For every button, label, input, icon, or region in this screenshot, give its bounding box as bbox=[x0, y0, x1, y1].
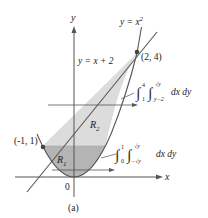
svg-text:−√y: −√y bbox=[131, 158, 141, 164]
lower-arrow-head-icon bbox=[109, 168, 115, 172]
svg-text:∫: ∫ bbox=[114, 147, 121, 164]
upper-integral-expression: ∫ 4 1 ∫ √y y−2 dx dy bbox=[135, 81, 192, 102]
svg-text:√y: √y bbox=[134, 143, 140, 149]
lower-integral-leader bbox=[101, 154, 116, 158]
origin-label: 0 bbox=[65, 182, 70, 192]
svg-text:4: 4 bbox=[142, 82, 145, 88]
x-axis-arrow-icon bbox=[156, 175, 163, 180]
lower-integral-expression: ∫ 1 0 ∫ √y −√y dx dy bbox=[114, 143, 177, 164]
double-integral-region-diagram: y x 0 y = x2 y = x + 2 (2, 4) (-1, 1) R2… bbox=[0, 0, 208, 218]
point-neg1-1 bbox=[41, 145, 46, 150]
svg-text:1: 1 bbox=[121, 144, 124, 150]
line-label: y = x + 2 bbox=[77, 56, 114, 66]
svg-text:y−2: y−2 bbox=[153, 96, 164, 102]
point-label-2-4: (2, 4) bbox=[141, 52, 162, 63]
svg-text:dx dy: dx dy bbox=[156, 149, 177, 159]
svg-text:dx dy: dx dy bbox=[171, 87, 192, 97]
figure-caption: (a) bbox=[68, 203, 79, 214]
svg-text:∫: ∫ bbox=[135, 85, 142, 102]
svg-text:0: 0 bbox=[121, 158, 124, 164]
point-2-4 bbox=[135, 50, 140, 55]
svg-text:∫: ∫ bbox=[147, 85, 154, 102]
upper-arrow-head-icon bbox=[132, 103, 138, 107]
parabola-label: y = x2 bbox=[119, 15, 144, 27]
svg-text:1: 1 bbox=[142, 96, 145, 102]
region-r2 bbox=[43, 53, 138, 146]
y-axis-label: y bbox=[70, 12, 76, 23]
point-label-neg1-1: (-1, 1) bbox=[14, 136, 38, 147]
y-axis-arrow-icon bbox=[72, 26, 77, 33]
svg-text:√y: √y bbox=[155, 81, 161, 87]
upper-integral-leader bbox=[121, 93, 134, 99]
x-axis-label: x bbox=[164, 171, 170, 182]
